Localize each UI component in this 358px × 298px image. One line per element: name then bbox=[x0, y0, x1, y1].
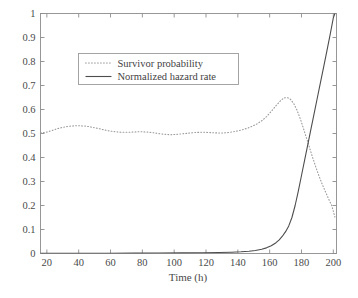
y-tick-label: 0.7 bbox=[22, 80, 35, 91]
y-tick-label: 0.9 bbox=[22, 32, 35, 43]
y-tick-label: 0.1 bbox=[22, 224, 35, 235]
y-tick-label: 0.2 bbox=[22, 200, 35, 211]
y-tick-label: 0.6 bbox=[22, 104, 35, 115]
series-group bbox=[41, 14, 335, 254]
x-tick-label: 80 bbox=[137, 257, 148, 268]
y-tick-label: 0.3 bbox=[22, 176, 35, 187]
chart-legend: Survivor probabilityNormalized hazard ra… bbox=[79, 54, 239, 85]
x-tick-label: 200 bbox=[325, 257, 341, 268]
chart-canvas: 2040608010012014016018020000.10.20.30.40… bbox=[0, 0, 358, 298]
tick-labels-group: 2040608010012014016018020000.10.20.30.40… bbox=[22, 8, 341, 268]
legend-label: Survivor probability bbox=[118, 58, 204, 69]
chart-figure: 2040608010012014016018020000.10.20.30.40… bbox=[0, 0, 358, 298]
x-tick-label: 100 bbox=[166, 257, 182, 268]
y-tick-label: 0 bbox=[30, 248, 35, 259]
x-tick-label: 140 bbox=[230, 257, 246, 268]
y-tick-label: 0.5 bbox=[22, 128, 35, 139]
x-tick-label: 160 bbox=[262, 257, 278, 268]
x-tick-label: 40 bbox=[73, 257, 84, 268]
x-tick-label: 60 bbox=[105, 257, 116, 268]
series-line-2 bbox=[41, 14, 335, 254]
series-line-1 bbox=[41, 98, 335, 218]
y-tick-label: 0.4 bbox=[22, 152, 36, 163]
y-tick-label: 1 bbox=[30, 8, 35, 19]
x-tick-label: 180 bbox=[294, 257, 310, 268]
x-tick-label: 120 bbox=[198, 257, 214, 268]
x-axis-title: Time (h) bbox=[169, 271, 208, 284]
y-tick-label: 0.8 bbox=[22, 56, 35, 67]
x-tick-label: 20 bbox=[42, 257, 53, 268]
axis-title-group: Time (h) bbox=[169, 271, 208, 284]
legend-label: Normalized hazard rate bbox=[118, 71, 217, 82]
